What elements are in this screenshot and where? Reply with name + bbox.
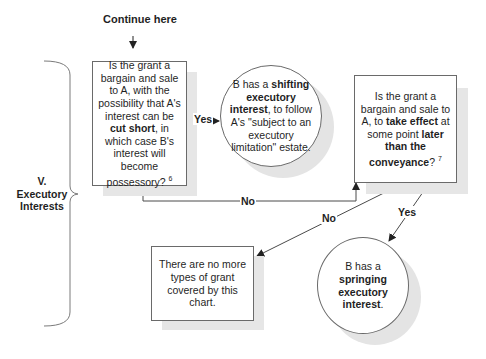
section-title-line2: Interests — [7, 200, 77, 213]
q2-no-label: No — [321, 212, 337, 224]
q2-text: Is the grant a bargain and sale to A, to… — [358, 90, 453, 168]
end-box-no-more-types: There are no more types of grant covered… — [151, 246, 254, 321]
r3-text: B has a springing executory interest. — [324, 260, 402, 310]
question-box-take-effect: Is the grant a bargain and sale to A, to… — [354, 75, 457, 183]
r2-text: There are no more types of grant covered… — [155, 258, 250, 308]
section-label: V. Executory Interests — [7, 175, 77, 213]
result-circle-springing: B has a springing executory interest. — [317, 237, 409, 334]
continue-here-label: Continue here — [102, 13, 178, 25]
q1-yes-label: Yes — [193, 113, 213, 125]
r1-text: B has a shifting executory interest, to … — [227, 78, 315, 154]
q2-yes-label: Yes — [397, 206, 417, 218]
q1-no-label: No — [240, 195, 256, 207]
section-title-line1: Executory — [7, 188, 77, 201]
section-number: V. — [7, 175, 77, 188]
result-circle-shifting: B has a shifting executory interest, to … — [220, 65, 322, 167]
question-box-cut-short: Is the grant a bargain and sale to A, wi… — [92, 61, 187, 186]
q1-text: Is the grant a bargain and sale to A, wi… — [96, 59, 183, 187]
